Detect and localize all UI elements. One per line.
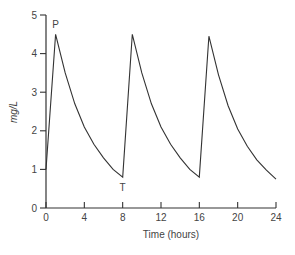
x-tick-label: 24 bbox=[270, 212, 282, 223]
concentration-curve bbox=[46, 34, 276, 179]
y-tick-label: 2 bbox=[31, 125, 37, 136]
annotation-p: P bbox=[52, 19, 59, 30]
annotations: PT bbox=[52, 19, 125, 193]
x-tick-label: 20 bbox=[232, 212, 244, 223]
y-tick-label: 1 bbox=[31, 164, 37, 175]
x-tick-label: 0 bbox=[43, 212, 49, 223]
x-tick-label: 16 bbox=[194, 212, 206, 223]
x-axis-label: Time (hours) bbox=[143, 229, 199, 240]
x-axis: 04812162024 Time (hours) bbox=[43, 202, 282, 240]
y-tick-label: 3 bbox=[31, 87, 37, 98]
y-tick-label: 4 bbox=[31, 48, 37, 59]
y-axis: 012345 mg/L bbox=[8, 10, 46, 214]
x-tick-label: 8 bbox=[120, 212, 126, 223]
x-tick-label: 4 bbox=[82, 212, 88, 223]
concentration-time-chart: 012345 mg/L 04812162024 Time (hours) PT bbox=[0, 0, 295, 255]
y-tick-label: 5 bbox=[31, 10, 37, 21]
y-tick-label: 0 bbox=[31, 203, 37, 214]
y-axis-label: mg/L bbox=[8, 101, 19, 123]
annotation-t: T bbox=[120, 182, 126, 193]
x-tick-label: 12 bbox=[155, 212, 167, 223]
